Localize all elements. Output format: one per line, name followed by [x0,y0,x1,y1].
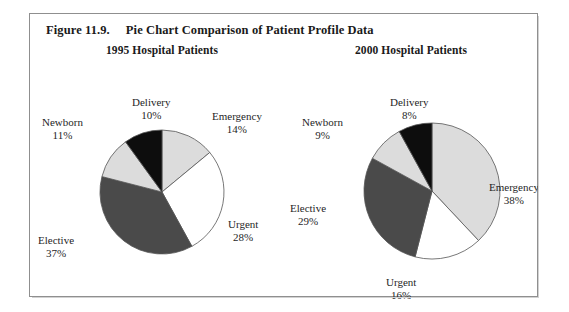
pie-label-percent: 11% [42,129,83,142]
pie-label-delivery: Delivery8% [390,96,428,122]
figure-number: Figure 11.9. [46,23,110,37]
pie-label-name: Elective [290,202,326,215]
pie-label-elective: Elective37% [38,234,74,260]
pie-label-percent: 29% [290,215,326,228]
pie-label-percent: 28% [228,231,258,244]
pie-label-percent: 14% [212,123,262,136]
pie-label-urgent: Urgent16% [386,276,416,302]
figure-caption: Figure 11.9.Pie Chart Comparison of Pati… [46,23,374,38]
pie-label-name: Emergency [489,181,539,194]
figure-frame: Figure 11.9.Pie Chart Comparison of Pati… [29,13,538,297]
pie-label-name: Elective [38,234,74,247]
pie-label-elective: Elective29% [290,202,326,228]
pie-label-newborn: Newborn9% [302,116,343,142]
pie-label-newborn: Newborn11% [42,116,83,142]
pie-label-name: Newborn [42,116,83,129]
pie-label-emergency: Emergency38% [489,181,539,207]
pie-label-name: Urgent [228,218,258,231]
pie-label-percent: 37% [38,247,74,260]
figure-title: Pie Chart Comparison of Patient Profile … [126,23,374,37]
pie-panel-1995: 1995 Hospital Patients Emergency14%Urgen… [36,44,288,294]
pie-label-percent: 9% [302,129,343,142]
pie-label-name: Delivery [132,96,170,109]
pie-label-percent: 38% [489,194,539,207]
pie-label-name: Emergency [212,110,262,123]
pie-panel-2000: 2000 Hospital Patients Emergency38%Urgen… [286,44,536,294]
pie-chart-2000 [286,44,536,294]
pie-label-name: Newborn [302,116,343,129]
pie-label-name: Delivery [390,96,428,109]
pie-label-urgent: Urgent28% [228,218,258,244]
pie-label-delivery: Delivery10% [132,96,170,122]
pie-label-percent: 10% [132,109,170,122]
pie-label-percent: 16% [386,289,416,302]
pie-label-name: Urgent [386,276,416,289]
pie-label-percent: 8% [390,109,428,122]
pie-label-emergency: Emergency14% [212,110,262,136]
